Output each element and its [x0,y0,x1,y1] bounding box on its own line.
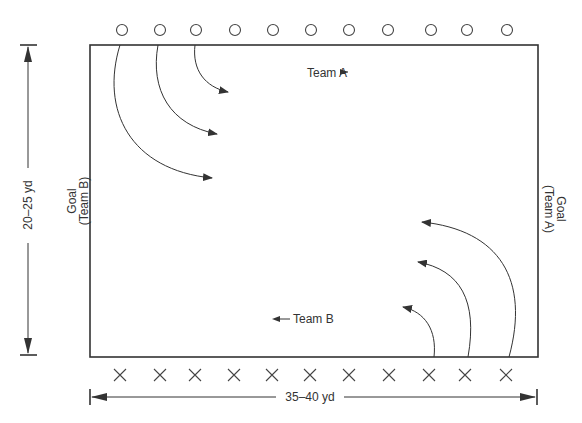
team-b-player [189,369,201,381]
field-boundary [90,45,538,357]
run-arrow [418,262,471,357]
team-a-player [502,25,513,36]
height-dimension-label: 20–25 yd [21,180,35,229]
team-b-player [228,369,240,381]
team-b-player [154,369,166,381]
team-a-player [306,25,317,36]
team-b-player [114,369,126,381]
team-a-player [191,25,202,36]
team-a-players [117,25,513,36]
team-b-run-arrows [403,222,516,357]
run-arrow [114,45,212,178]
team-b-player [500,369,512,381]
goal-left-team: (Team B) [77,177,91,226]
run-arrow [422,222,516,357]
run-arrow [156,45,217,134]
team-b-player [304,369,316,381]
team-b-player [383,369,395,381]
width-dimension-label: 35–40 yd [285,390,334,404]
team-a-player [268,25,279,36]
team-a-player [462,25,473,36]
team-b-player [423,369,435,381]
field-diagram: Team A Team B Goal (Team B) Goal (Team A… [0,0,582,423]
team-b-players [114,369,512,381]
team-b-label: Team B [293,312,334,326]
team-a-player [344,25,355,36]
team-a-player [117,25,128,36]
team-a-run-arrows [114,45,228,178]
run-arrow [403,307,434,357]
team-b-direction-arrowhead [272,316,280,322]
team-a-player [426,25,437,36]
team-a-player [155,25,166,36]
run-arrow [195,45,228,92]
team-a-player [230,25,241,36]
team-b-player [459,369,471,381]
team-b-player [343,369,355,381]
team-a-player [383,25,394,36]
team-b-player [266,369,278,381]
goal-right-team: (Team A) [542,185,556,233]
